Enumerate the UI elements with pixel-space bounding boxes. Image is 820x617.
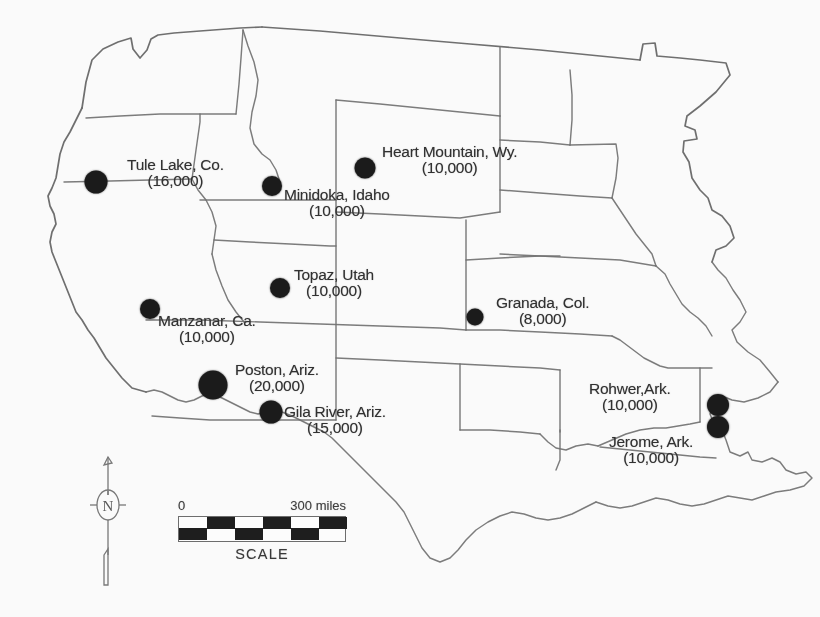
camp-name-manzanar: Manzanar, Ca. bbox=[158, 313, 256, 329]
border-co-ks bbox=[466, 330, 612, 336]
scale-min-label: 0 bbox=[178, 498, 185, 513]
border-or-nv-id bbox=[192, 179, 216, 254]
camp-label-manzanar: Manzanar, Ca.(10,000) bbox=[158, 313, 256, 345]
camp-label-topaz: Topaz, Utah(10,000) bbox=[294, 267, 374, 299]
great-lakes-edge bbox=[640, 43, 734, 262]
camp-name-tule-lake: Tule Lake, Co. bbox=[127, 157, 224, 173]
map-scale-bar: 0 300 miles SCALE bbox=[178, 498, 346, 562]
scale-segment bbox=[179, 528, 207, 540]
camp-label-tule-lake: Tule Lake, Co.(16,000) bbox=[127, 157, 224, 189]
scale-segment bbox=[319, 517, 347, 529]
camp-label-rohwer: Rohwer,Ark.(10,000) bbox=[589, 381, 671, 413]
camp-name-minidoka: Minidoka, Idaho bbox=[284, 187, 390, 203]
camp-name-rohwer: Rohwer,Ark. bbox=[589, 381, 671, 397]
camp-label-heart-mountain: Heart Mountain, Wy.(10,000) bbox=[382, 144, 517, 176]
border-mt-wy bbox=[336, 100, 500, 116]
border-tx-ok-red-river bbox=[460, 430, 540, 434]
scale-segment bbox=[263, 517, 291, 529]
camp-name-heart-mountain: Heart Mountain, Wy. bbox=[382, 144, 517, 160]
camp-label-gila-river: Gila River, Ariz.(15,000) bbox=[284, 404, 386, 436]
mississippi-upper bbox=[712, 262, 778, 382]
camp-name-poston: Poston, Ariz. bbox=[235, 362, 319, 378]
compass-rose: N bbox=[84, 455, 132, 587]
california-coast bbox=[48, 108, 146, 392]
border-sd-ne bbox=[500, 190, 612, 198]
washington-coast bbox=[82, 27, 262, 108]
red-river bbox=[540, 434, 598, 450]
camp-marker-minidoka[interactable] bbox=[262, 176, 282, 196]
border-wa-id bbox=[236, 30, 243, 114]
camp-name-granada: Granada, Col. bbox=[496, 295, 589, 311]
camp-population-minidoka: (10,000) bbox=[284, 203, 390, 219]
camp-population-heart-mountain: (10,000) bbox=[382, 160, 517, 176]
camp-marker-heart-mountain[interactable] bbox=[355, 158, 376, 179]
border-ne-ia bbox=[612, 198, 656, 266]
border-tx-la-north bbox=[556, 430, 560, 470]
border-sd-ia bbox=[570, 144, 618, 198]
border-nd-mn bbox=[570, 70, 572, 145]
camp-population-granada: (8,000) bbox=[496, 311, 589, 327]
missouri-river bbox=[656, 266, 712, 336]
camp-marker-rohwer[interactable] bbox=[707, 394, 729, 416]
compass-tail bbox=[104, 549, 108, 585]
camp-population-jerome: (10,000) bbox=[609, 450, 693, 466]
camp-marker-manzanar[interactable] bbox=[140, 299, 160, 319]
camp-name-topaz: Topaz, Utah bbox=[294, 267, 374, 283]
camp-label-granada: Granada, Col.(8,000) bbox=[496, 295, 589, 327]
camp-marker-granada[interactable] bbox=[467, 309, 484, 326]
scale-max-label: 300 miles bbox=[290, 498, 346, 513]
border-wa-or bbox=[86, 114, 236, 118]
camp-population-rohwer: (10,000) bbox=[589, 397, 671, 413]
scale-tick-labels: 0 300 miles bbox=[178, 498, 346, 514]
camp-label-poston: Poston, Ariz.(20,000) bbox=[235, 362, 319, 394]
northern-border bbox=[262, 27, 640, 60]
border-nv-ut-hint bbox=[214, 240, 336, 246]
camp-name-gila-river: Gila River, Ariz. bbox=[284, 404, 386, 420]
compass-north-label: N bbox=[103, 498, 114, 514]
scale-segment bbox=[207, 517, 235, 529]
border-co-ne bbox=[466, 256, 560, 260]
camp-marker-poston[interactable] bbox=[199, 371, 228, 400]
camp-population-tule-lake: (16,000) bbox=[127, 173, 224, 189]
border-nm-ok bbox=[336, 358, 560, 370]
compass-needle-icon: N bbox=[84, 455, 132, 587]
camp-population-manzanar: (10,000) bbox=[158, 329, 256, 345]
border-ks-mo bbox=[612, 336, 712, 368]
camp-marker-tule-lake[interactable] bbox=[85, 171, 108, 194]
internment-camps-map: Tule Lake, Co.(16,000)Minidoka, Idaho(10… bbox=[0, 0, 820, 617]
camp-population-gila-river: (15,000) bbox=[284, 420, 386, 436]
scale-caption: SCALE bbox=[178, 546, 346, 562]
camp-marker-jerome[interactable] bbox=[707, 416, 729, 438]
scale-checker-bar bbox=[178, 516, 346, 542]
camp-label-minidoka: Minidoka, Idaho(10,000) bbox=[284, 187, 390, 219]
camp-marker-gila-river[interactable] bbox=[260, 401, 283, 424]
border-id-mt bbox=[243, 30, 280, 182]
camp-population-poston: (20,000) bbox=[235, 378, 319, 394]
scale-segment bbox=[291, 528, 319, 540]
scale-segment bbox=[235, 528, 263, 540]
camp-marker-topaz[interactable] bbox=[270, 278, 290, 298]
camp-population-topaz: (10,000) bbox=[294, 283, 374, 299]
camp-name-jerome: Jerome, Ark. bbox=[609, 434, 693, 450]
border-ne-ks bbox=[500, 254, 656, 266]
camp-label-jerome: Jerome, Ark.(10,000) bbox=[609, 434, 693, 466]
